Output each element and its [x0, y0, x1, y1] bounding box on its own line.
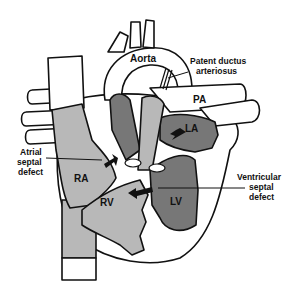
superior-vena-cava — [48, 56, 84, 110]
label-vsd-3: defect — [249, 192, 274, 202]
valve-2 — [149, 164, 165, 172]
aorta-branch-1 — [108, 32, 128, 52]
valve-1 — [125, 159, 141, 167]
label-vsd-2: septal — [249, 182, 274, 192]
label-asd-1: Atrial — [20, 147, 42, 157]
label-lv: LV — [170, 196, 182, 207]
heart-diagram-svg: Aorta Patent ductus arteriosus PA LA RA … — [0, 0, 296, 295]
label-asd-3: defect — [18, 167, 43, 177]
label-pda-1: Patent ductus — [190, 56, 246, 66]
label-vsd-1: Ventricular — [237, 172, 282, 182]
ivc-end — [62, 258, 96, 280]
label-la: LA — [185, 123, 198, 134]
label-asd-2: septal — [17, 157, 42, 167]
aorta-branch-3 — [143, 20, 154, 48]
aorta-branch-2 — [130, 22, 141, 48]
label-aorta: Aorta — [130, 53, 157, 64]
label-rv: RV — [100, 197, 114, 208]
label-pda-2: arteriosus — [196, 66, 237, 76]
label-pa: PA — [193, 94, 206, 105]
heart-diagram: Aorta Patent ductus arteriosus PA LA RA … — [0, 0, 296, 295]
label-ra: RA — [74, 173, 88, 184]
